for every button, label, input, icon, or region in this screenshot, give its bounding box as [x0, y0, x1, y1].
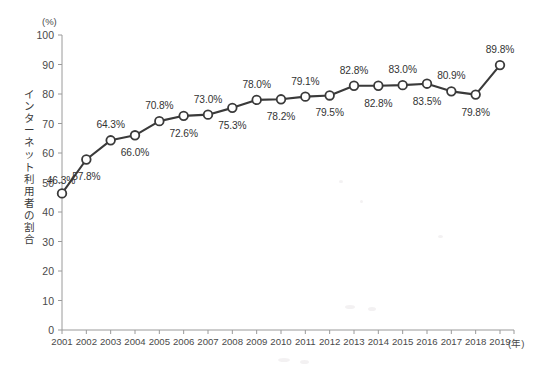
x-tick-label: 2006: [173, 336, 194, 347]
y-tick-label: 90: [28, 59, 54, 71]
data-point-label: 70.8%: [145, 100, 173, 111]
y-tick-label: 100: [28, 29, 54, 41]
data-point-label: 82.8%: [364, 97, 392, 108]
x-tick-label: 2012: [319, 336, 340, 347]
line-chart: (%) インターネット利用者の割合 (年) 010203040506070809…: [0, 0, 546, 373]
data-point-label: 73.0%: [194, 93, 222, 104]
data-point-label: 75.3%: [218, 119, 246, 130]
data-point-label: 72.6%: [169, 127, 197, 138]
x-tick-label: 2011: [295, 336, 316, 347]
data-point-label: 79.5%: [315, 107, 343, 118]
y-tick-label: 10: [28, 295, 54, 307]
y-tick-label: 60: [28, 147, 54, 159]
x-tick-label: 2002: [76, 336, 97, 347]
x-tick-label: 2013: [343, 336, 364, 347]
plot-area: [0, 0, 546, 373]
data-point-label: 79.8%: [461, 106, 489, 117]
y-tick-label: 0: [28, 324, 54, 336]
data-point-label: 66.0%: [121, 147, 149, 158]
data-point-label: 83.5%: [413, 95, 441, 106]
data-point-label: 57.8%: [72, 171, 100, 182]
x-tick-label: 2004: [124, 336, 145, 347]
x-tick-label: 2019: [489, 336, 510, 347]
x-tick-label: 2010: [270, 336, 291, 347]
x-tick-label: 2015: [392, 336, 413, 347]
x-tick-label: 2009: [246, 336, 267, 347]
data-point-label: 78.2%: [267, 111, 295, 122]
x-tick-label: 2018: [465, 336, 486, 347]
y-tick-label: 70: [28, 118, 54, 130]
data-point-label: 89.8%: [486, 44, 514, 55]
data-point-label: 78.0%: [242, 78, 270, 89]
x-tick-label: 2008: [222, 336, 243, 347]
data-point-label: 79.1%: [291, 75, 319, 86]
data-point-label: 64.3%: [96, 119, 124, 130]
data-point-label: 82.8%: [340, 64, 368, 75]
x-tick-label: 2016: [416, 336, 437, 347]
x-tick-label: 2003: [100, 336, 121, 347]
x-tick-label: 2014: [368, 336, 389, 347]
y-tick-label: 40: [28, 206, 54, 218]
x-tick-label: 2017: [441, 336, 462, 347]
x-tick-label: 2001: [51, 336, 72, 347]
y-tick-label: 30: [28, 236, 54, 248]
x-tick-label: 2007: [197, 336, 218, 347]
data-series-line: [62, 65, 500, 193]
x-tick-label: 2005: [149, 336, 170, 347]
data-point-label: 46.3%: [47, 175, 75, 186]
data-point-label: 80.9%: [437, 70, 465, 81]
y-tick-label: 20: [28, 265, 54, 277]
data-point-label: 83.0%: [388, 64, 416, 75]
y-tick-label: 80: [28, 88, 54, 100]
